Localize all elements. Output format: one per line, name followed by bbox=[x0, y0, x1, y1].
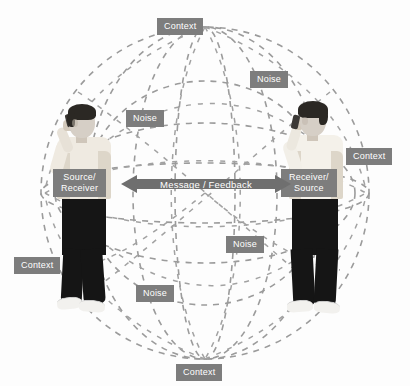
right-person-hair bbox=[319, 109, 328, 125]
label-source-receiver-line2: Receiver bbox=[61, 183, 98, 194]
label-context-right: Context bbox=[346, 148, 392, 165]
label-noise-lower-right: Noise bbox=[226, 236, 264, 253]
left-person-figure bbox=[48, 101, 130, 313]
label-context-bottom: Context bbox=[176, 364, 222, 381]
right-person-shoe bbox=[287, 299, 314, 313]
right-person-leg bbox=[314, 248, 339, 306]
right-person-leg bbox=[291, 248, 316, 306]
label-context-top: Context bbox=[157, 18, 203, 35]
message-feedback-arrow: Message / Feedback bbox=[121, 174, 291, 194]
label-receiver-source-line1: Receiver/ bbox=[289, 172, 329, 183]
label-source-receiver-line1: Source/ bbox=[61, 172, 98, 183]
left-person-face-shading bbox=[72, 119, 78, 127]
left-person-shoe bbox=[79, 299, 106, 313]
label-noise-upper-right: Noise bbox=[250, 71, 288, 88]
label-source-receiver: Source/ Receiver bbox=[53, 169, 106, 197]
arrow-shape bbox=[121, 175, 291, 193]
left-person-leg bbox=[80, 248, 106, 304]
label-receiver-source-line2: Source bbox=[289, 183, 329, 194]
diagram-canvas: Context Noise Noise Context Source/ Rece… bbox=[0, 0, 410, 386]
right-person-pants bbox=[292, 195, 338, 255]
label-noise-lower-left: Noise bbox=[136, 285, 174, 302]
right-person-face-shading bbox=[302, 117, 308, 125]
right-person-figure bbox=[280, 101, 362, 313]
label-noise-upper-left: Noise bbox=[126, 110, 164, 127]
left-person-pants bbox=[62, 195, 106, 255]
label-context-left: Context bbox=[14, 257, 60, 274]
right-person-shoe bbox=[314, 300, 341, 314]
